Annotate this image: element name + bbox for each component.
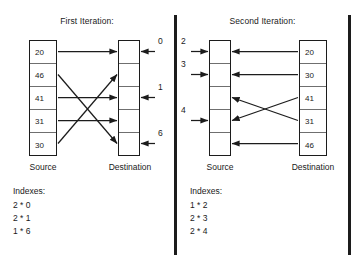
destination-cell: 30 — [300, 64, 326, 87]
destination-column-first — [118, 40, 140, 156]
source-caption-first: Source — [14, 162, 72, 172]
source-cell — [210, 133, 230, 157]
index-entry: 2 * 4 — [190, 225, 222, 238]
source-cell: 46 — [30, 64, 56, 87]
source-column-first: 20 46 41 31 30 — [29, 40, 57, 156]
index-entry: 2 * 0 — [13, 199, 45, 212]
index-label-2: 2 — [181, 36, 186, 46]
indexes-title: Indexes: — [13, 185, 45, 198]
panel-second-iteration: Second Iteration: 20 30 41 31 46 Source … — [177, 0, 348, 268]
index-entry: 1 * 6 — [13, 225, 45, 238]
source-cell — [210, 41, 230, 64]
source-cell — [210, 64, 230, 87]
destination-cell: 20 — [300, 41, 326, 64]
destination-cell — [119, 133, 139, 157]
index-label-4: 4 — [181, 105, 186, 115]
destination-cell — [119, 41, 139, 64]
indexes-block-second: Indexes: 1 * 2 2 * 3 2 * 4 — [190, 185, 222, 238]
panel-title-first-iteration: First Iteration: — [0, 16, 174, 26]
index-entry: 2 * 1 — [13, 212, 45, 225]
index-label-6: 6 — [158, 128, 163, 138]
diagram-canvas: First Iteration: 20 46 41 31 30 Source D… — [0, 0, 364, 268]
source-cell: 31 — [30, 110, 56, 133]
panel-divider-2 — [348, 15, 351, 255]
index-entry: 2 * 3 — [190, 212, 222, 225]
destination-cell — [119, 64, 139, 87]
source-cell — [210, 87, 230, 110]
destination-column-second: 20 30 41 31 46 — [299, 40, 327, 156]
panel-first-iteration: First Iteration: 20 46 41 31 30 Source D… — [0, 0, 174, 268]
source-caption-second: Source — [190, 162, 250, 172]
index-label-1: 1 — [158, 82, 163, 92]
index-label-0: 0 — [158, 36, 163, 46]
source-column-second — [209, 40, 231, 156]
indexes-title: Indexes: — [190, 185, 222, 198]
destination-cell — [119, 110, 139, 133]
destination-cell — [119, 87, 139, 110]
source-cell: 20 — [30, 41, 56, 64]
panel-title-second-iteration: Second Iteration: — [177, 16, 348, 26]
source-cell — [210, 110, 230, 133]
index-entry: 1 * 2 — [190, 199, 222, 212]
destination-cell: 31 — [300, 110, 326, 133]
source-cell: 30 — [30, 133, 56, 157]
destination-cell: 46 — [300, 133, 326, 157]
destination-caption-first: Destination — [100, 162, 160, 172]
source-cell: 41 — [30, 87, 56, 110]
index-label-3: 3 — [181, 59, 186, 69]
destination-caption-second: Destination — [282, 162, 344, 172]
destination-cell: 41 — [300, 87, 326, 110]
indexes-block-first: Indexes: 2 * 0 2 * 1 1 * 6 — [13, 185, 45, 238]
